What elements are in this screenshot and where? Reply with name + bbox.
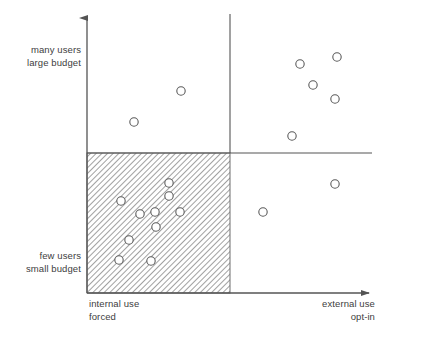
quadrant-diagram-figure: many users large budget few users small … — [0, 0, 422, 338]
x-axis-left-label: internal use forced — [89, 298, 199, 323]
data-point-marker — [136, 210, 144, 218]
data-point-marker — [165, 192, 173, 200]
y-axis-bottom-label-line2: small budget — [13, 263, 81, 276]
footer-caption — [6, 329, 416, 337]
data-point-marker — [177, 87, 185, 95]
x-axis-right-label-line2: opt-in — [265, 311, 375, 324]
data-point-marker — [333, 53, 341, 61]
data-point-marker — [309, 81, 317, 89]
data-point-marker — [331, 180, 339, 188]
data-point-marker — [147, 257, 155, 265]
y-axis-bottom-label-line1: few users — [13, 250, 81, 263]
data-point-marker — [125, 236, 133, 244]
data-point-marker — [117, 197, 125, 205]
data-point-marker — [151, 208, 159, 216]
x-axis-right-label-line1: external use — [265, 298, 375, 311]
x-axis-left-label-line2: forced — [89, 311, 199, 324]
x-axis-right-label: external use opt-in — [265, 298, 375, 323]
data-point-group — [288, 53, 341, 140]
y-axis-top-label-line2: large budget — [17, 57, 81, 70]
data-point-marker — [288, 132, 296, 140]
data-point-marker — [176, 208, 184, 216]
y-axis-top-label-line1: many users — [17, 44, 81, 57]
quadrant-divider-lines — [87, 14, 372, 153]
data-point-marker — [296, 60, 304, 68]
data-point-marker — [130, 118, 138, 126]
data-point-marker — [165, 179, 173, 187]
data-point-marker — [259, 208, 267, 216]
data-point-group — [259, 180, 339, 216]
y-axis-bottom-label: few users small budget — [13, 250, 81, 275]
data-point-marker — [115, 256, 123, 264]
y-axis-top-label: many users large budget — [17, 44, 81, 69]
data-point-marker — [331, 95, 339, 103]
data-point-marker — [152, 223, 160, 231]
data-point-group — [130, 87, 185, 126]
x-axis-left-label-line1: internal use — [89, 298, 199, 311]
